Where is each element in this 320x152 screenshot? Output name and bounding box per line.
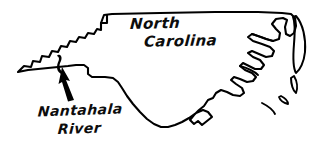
state-name-label: North Carolina (130, 16, 217, 50)
hand-drawn-north-carolina-map: North Carolina Nantahala River (0, 0, 320, 152)
river-name-label: Nantahala River (38, 103, 123, 135)
river-label-line-1: Nantahala (37, 102, 123, 120)
sound-inlet-lower (240, 66, 258, 75)
outer-banks-middle-segment (291, 76, 297, 93)
state-label-line-1: North (129, 15, 217, 33)
river-label-line-2: River (57, 120, 123, 137)
state-label-line-2: Carolina (143, 33, 217, 50)
cape-spit (262, 103, 275, 114)
outer-banks-south-fleck (279, 96, 288, 104)
outer-banks-north-strip (293, 16, 305, 73)
sound-inlet-upper (252, 34, 273, 41)
